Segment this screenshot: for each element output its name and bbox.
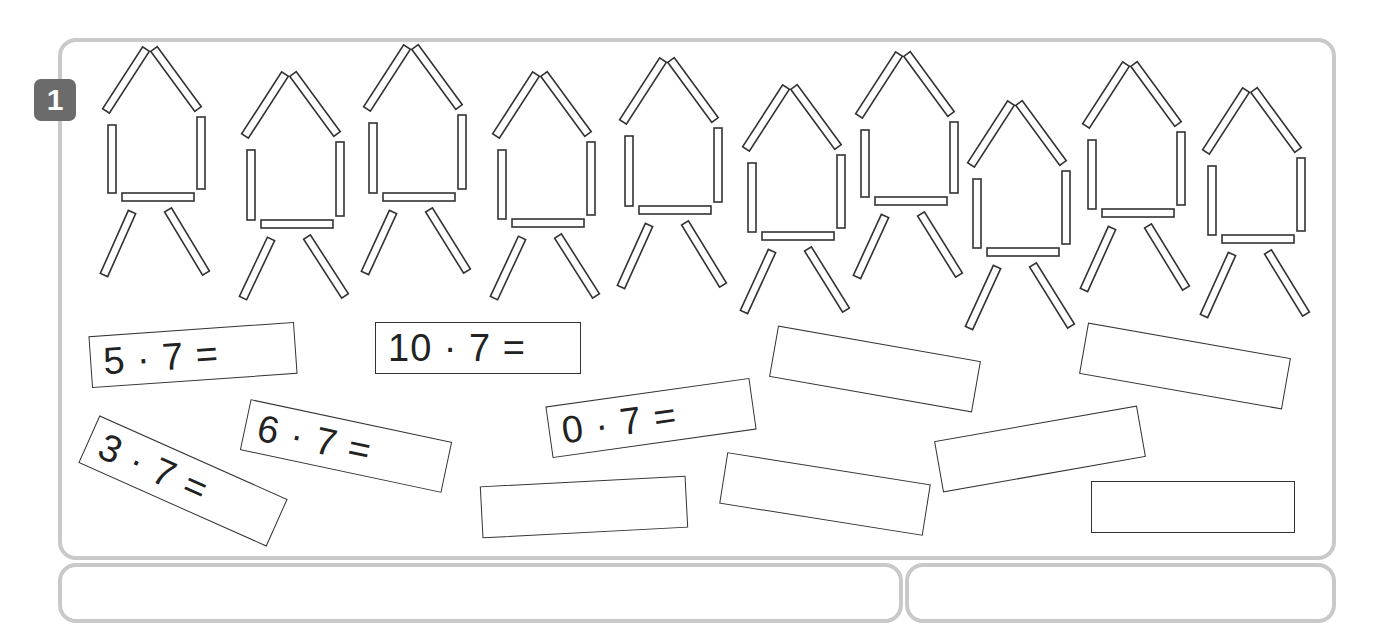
matchstick — [1203, 88, 1250, 154]
matchstick — [555, 234, 600, 298]
matchstick-figure-5 — [617, 58, 726, 289]
matchstick — [856, 52, 903, 118]
matchstick — [1030, 263, 1075, 328]
matchstick — [861, 130, 869, 197]
matchstick — [247, 150, 255, 220]
matchstick-figure-7 — [853, 52, 962, 279]
matchstick — [304, 235, 349, 298]
matchstick — [108, 125, 116, 193]
matchstick — [748, 163, 756, 232]
matchstick — [987, 248, 1059, 256]
matchstick — [426, 208, 471, 273]
matchstick — [1145, 224, 1190, 290]
matchstick — [383, 193, 455, 201]
matchstick — [369, 123, 377, 193]
matchstick — [743, 85, 790, 151]
matchstick — [498, 150, 506, 219]
matchstick — [242, 72, 289, 138]
matchstick — [1177, 132, 1185, 205]
matchstick — [853, 214, 888, 278]
matchstick — [100, 210, 135, 276]
matchstick — [682, 221, 727, 287]
matchstick — [904, 52, 954, 117]
matchstick — [493, 72, 540, 138]
matchstick — [1131, 62, 1181, 127]
matchstick — [239, 237, 274, 299]
matchstick — [791, 85, 841, 150]
matchstick — [918, 212, 963, 277]
matchstick — [587, 142, 595, 215]
matchstick — [151, 47, 201, 112]
matchstick — [364, 45, 411, 111]
matchstick — [639, 206, 711, 214]
matchstick-figure-4 — [490, 72, 599, 300]
matchstick — [122, 193, 194, 201]
matchstick-figure-6 — [740, 85, 849, 314]
equation-text: 10 · 7 = — [388, 327, 526, 370]
matchstick — [1251, 88, 1301, 153]
matchstick-figure-2 — [239, 72, 348, 300]
blank-answer-box-4[interactable] — [480, 476, 688, 539]
matchstick — [1083, 62, 1130, 128]
matchstick — [1062, 171, 1070, 244]
matchstick — [968, 101, 1015, 167]
matchstick — [1222, 235, 1294, 243]
matchstick — [617, 223, 652, 288]
matchstick — [950, 122, 958, 193]
matchstick — [458, 115, 466, 189]
matchstick — [361, 210, 396, 274]
matchstick-figure-3 — [361, 45, 470, 275]
matchstick-figure-1 — [100, 47, 209, 277]
matchstick — [1208, 166, 1216, 235]
matchstick — [541, 72, 591, 137]
matchstick — [412, 45, 462, 110]
matchstick — [1297, 158, 1305, 231]
matchstick — [625, 136, 633, 206]
matchstick — [336, 142, 344, 216]
matchstick — [805, 247, 850, 312]
matchstick — [1016, 101, 1066, 166]
blank-answer-box-6[interactable] — [1091, 481, 1295, 533]
matchstick — [740, 249, 775, 313]
matchstick — [261, 220, 333, 228]
matchstick — [512, 219, 584, 227]
matchstick — [490, 236, 525, 299]
matchstick — [620, 58, 667, 124]
matchstick — [1102, 209, 1174, 217]
matchstick — [1200, 252, 1235, 317]
equation-text: 5 · 7 = — [102, 332, 221, 383]
matchstick — [1265, 250, 1310, 316]
equation-box-eq-10[interactable]: 10 · 7 = — [375, 322, 581, 374]
matchstick — [1080, 226, 1115, 291]
matchstick — [875, 197, 947, 205]
matchstick — [837, 155, 845, 228]
matchstick — [668, 58, 718, 123]
matchstick-figure-10 — [1200, 88, 1309, 318]
matchstick — [762, 232, 834, 240]
matchstick — [965, 265, 1000, 329]
matchstick — [973, 179, 981, 248]
matchstick — [197, 117, 205, 189]
matchstick — [714, 128, 722, 202]
matchstick — [290, 72, 340, 137]
matchstick-figure-8 — [965, 101, 1074, 330]
matchstick-figure-9 — [1080, 62, 1189, 292]
matchstick — [165, 208, 210, 275]
matchstick — [1088, 140, 1096, 209]
matchstick — [103, 47, 150, 113]
